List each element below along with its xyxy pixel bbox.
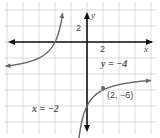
y-axis-label: y <box>91 11 95 20</box>
x-axis <box>8 39 153 45</box>
x-axis-left-arrow-icon <box>8 39 15 45</box>
y-axis-up-arrow-icon <box>84 12 90 19</box>
graph-canvas <box>0 0 160 138</box>
y-axis <box>84 12 90 132</box>
x-axis-label: x <box>144 45 148 54</box>
curve-arrow-icon <box>146 78 151 83</box>
horizontal-asymptote-label: y = −4 <box>101 59 127 69</box>
x-tick-label: 2 <box>100 45 105 54</box>
grid-lines <box>4 2 156 134</box>
y-tick-label: 2 <box>76 24 81 33</box>
vertical-asymptote-label: x = −2 <box>32 104 59 114</box>
y-axis-down-arrow-icon <box>84 125 90 132</box>
point-label: (2, −6) <box>107 91 133 100</box>
point-marker <box>101 86 105 90</box>
